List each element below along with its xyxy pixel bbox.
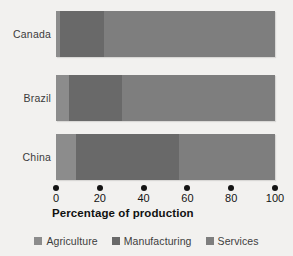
bar-segment-manufacturing (60, 11, 104, 57)
bar-segment-agriculture (56, 75, 69, 121)
tick-dot-icon (97, 185, 103, 191)
x-axis-tick-label: 20 (80, 192, 120, 204)
bar-row: Canada (0, 11, 293, 57)
x-axis-tick-label: 100 (255, 192, 293, 204)
tick-dot-icon (53, 185, 59, 191)
x-axis-tick-label: 0 (36, 192, 76, 204)
legend-swatch-icon (34, 237, 42, 245)
bar-segment-agriculture (56, 134, 76, 180)
bar-segment-manufacturing (76, 134, 179, 180)
legend-label: Agriculture (46, 235, 97, 247)
tick-dot-icon (184, 185, 190, 191)
legend-item[interactable]: Services (206, 235, 259, 247)
bar-segment-services (179, 134, 275, 180)
x-axis-tick-label: 60 (167, 192, 207, 204)
plot-area: Canada Brazil China (0, 0, 293, 190)
stacked-bar-brazil (56, 75, 275, 121)
x-axis-tick-label: 40 (124, 192, 164, 204)
category-label-canada: Canada (2, 11, 51, 57)
legend-label: Services (218, 235, 259, 247)
category-label-china: China (2, 134, 51, 180)
bar-segment-services (122, 75, 275, 121)
legend-item[interactable]: Agriculture (34, 235, 97, 247)
tick-dot-icon (141, 185, 147, 191)
legend-swatch-icon (206, 237, 214, 245)
x-axis-title: Percentage of production (52, 207, 194, 219)
bar-row: China (0, 134, 293, 180)
stacked-bar-chart: Canada Brazil China 02040608010 (0, 0, 293, 256)
bar-row: Brazil (0, 75, 293, 121)
legend-swatch-icon (112, 237, 120, 245)
stacked-bar-canada (56, 11, 275, 57)
bar-segment-services (104, 11, 275, 57)
x-axis-tick-label: 80 (211, 192, 251, 204)
stacked-bar-china (56, 134, 275, 180)
legend-label: Manufacturing (124, 235, 192, 247)
bar-segment-manufacturing (69, 75, 122, 121)
tick-dot-icon (272, 185, 278, 191)
tick-dot-icon (228, 185, 234, 191)
legend-item[interactable]: Manufacturing (112, 235, 192, 247)
category-label-brazil: Brazil (2, 75, 51, 121)
chart-legend: AgricultureManufacturingServices (0, 231, 293, 251)
